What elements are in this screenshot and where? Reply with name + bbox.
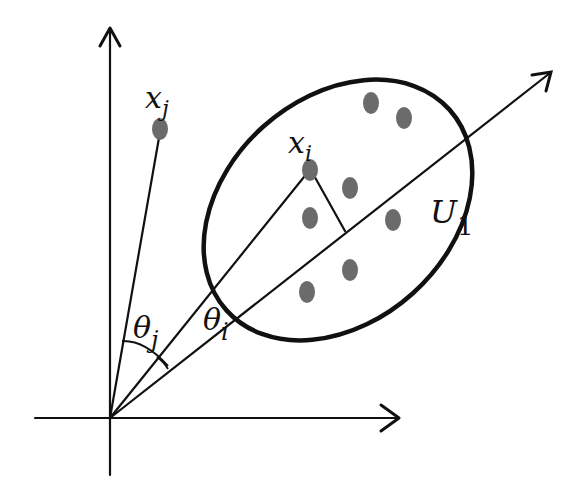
cluster-point [385,209,401,231]
principal-axis [110,72,551,418]
cluster-point [342,259,358,281]
data-cluster-ellipse [152,26,525,393]
cluster-point [363,92,379,114]
vector-xj [110,132,160,418]
cluster-point [299,281,315,303]
label-xi: xi [288,125,312,166]
label-u1: U1 [430,193,474,241]
cluster-point [342,177,358,199]
axes [35,28,399,475]
cluster-point [396,107,412,129]
label-xj: xj [145,80,169,121]
point-xj [152,118,168,140]
pca-diagram: xj xi U1 θj θi [0,0,581,495]
cluster-point [302,207,318,229]
data-points [152,92,412,303]
